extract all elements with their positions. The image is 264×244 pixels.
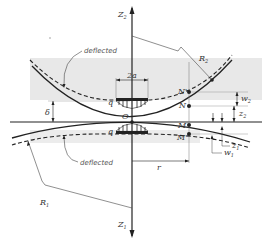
- arrow-icon: [52, 101, 55, 105]
- point-m-label: M: [177, 121, 187, 130]
- z1-label: z1: [231, 141, 239, 151]
- contact-diagram: Z2 Z1 deflected deflected 2a q q O δ R2 …: [0, 0, 264, 244]
- arrow-icon: [233, 106, 236, 110]
- point-n-prime: [187, 90, 191, 94]
- point-m-prime: [187, 132, 191, 136]
- point-m-prime-label: M': [176, 133, 187, 142]
- delta-label: δ: [45, 108, 50, 117]
- point-n-prime-label: N': [177, 87, 187, 96]
- r-label: r: [157, 163, 162, 172]
- r2-end-point: [210, 78, 214, 82]
- z1-arrow-icon: [130, 230, 135, 238]
- z1-leader: [222, 128, 230, 146]
- deflected-upper-label: deflected: [84, 47, 117, 55]
- z2-label: z2: [238, 109, 246, 119]
- point-n-label: N: [178, 101, 187, 110]
- radius-r2-label: R2: [198, 54, 208, 64]
- point-n: [187, 104, 191, 108]
- contact-width-label: 2a: [126, 71, 137, 80]
- pressure-lower-label: q: [108, 127, 113, 136]
- arrow-icon: [221, 126, 224, 130]
- arrow-icon: [211, 135, 214, 139]
- z1-axis-label: Z1: [117, 220, 127, 230]
- origin-point: [130, 120, 134, 124]
- origin-label: O: [122, 112, 129, 121]
- lower-shade-region: [30, 130, 200, 143]
- z2-axis-label: Z2: [117, 10, 127, 20]
- stray-mark: [49, 37, 51, 39]
- pressure-upper-label: q: [108, 98, 113, 107]
- radius-r1-label: R1: [39, 198, 49, 208]
- z2-arrow-icon: [130, 6, 135, 14]
- deflected-lower-label: deflected: [80, 159, 113, 167]
- point-m: [187, 123, 191, 127]
- arrow-icon: [236, 102, 239, 106]
- arrow-icon: [185, 160, 189, 163]
